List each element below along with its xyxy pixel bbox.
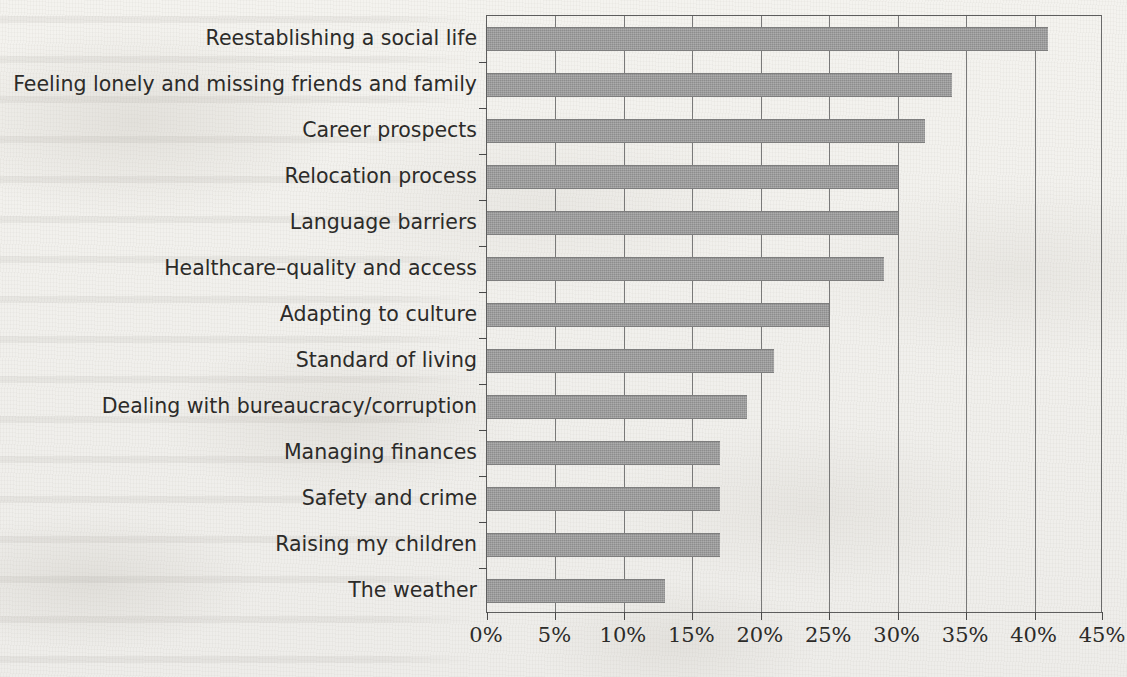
bar — [487, 165, 898, 189]
category-label: Feeling lonely and missing friends and f… — [0, 72, 477, 96]
bar — [487, 533, 720, 557]
y-axis-tick — [479, 292, 487, 293]
bar-row — [487, 430, 1101, 476]
plot-area — [486, 15, 1102, 613]
y-axis-tick — [479, 246, 487, 247]
category-label: Safety and crime — [0, 486, 477, 510]
bar — [487, 257, 884, 281]
x-axis-tick-label: 25% — [805, 622, 852, 648]
bar — [487, 119, 925, 143]
x-axis-tick-label: 45% — [1079, 622, 1126, 648]
category-label: Career prospects — [0, 118, 477, 142]
horizontal-bar-chart: Reestablishing a social lifeFeeling lone… — [0, 0, 1127, 677]
x-axis-tick-label: 0% — [469, 622, 502, 648]
bar — [487, 487, 720, 511]
bar — [487, 27, 1048, 51]
x-axis-tick-label: 10% — [600, 622, 647, 648]
x-tick-45% — [1102, 612, 1103, 620]
bar-row — [487, 338, 1101, 384]
y-axis-tick — [479, 522, 487, 523]
y-axis-tick — [479, 430, 487, 431]
bar-row — [487, 292, 1101, 338]
bar-row — [487, 16, 1101, 62]
x-axis-tick-label: 35% — [942, 622, 989, 648]
x-axis-tick-label: 5% — [538, 622, 571, 648]
bar-row — [487, 62, 1101, 108]
bar — [487, 349, 774, 373]
bar — [487, 579, 665, 603]
x-axis-tick-label: 15% — [668, 622, 715, 648]
y-axis-tick — [479, 108, 487, 109]
category-label: Reestablishing a social life — [0, 26, 477, 50]
bar-row — [487, 476, 1101, 522]
bar-row — [487, 200, 1101, 246]
x-axis-tick-label: 30% — [873, 622, 920, 648]
bar — [487, 73, 952, 97]
x-axis-tick-label: 40% — [1010, 622, 1057, 648]
bar-row — [487, 384, 1101, 430]
y-axis-tick — [479, 200, 487, 201]
category-label: Healthcare–quality and access — [0, 256, 477, 280]
bar — [487, 211, 898, 235]
category-label: Adapting to culture — [0, 302, 477, 326]
category-label: Standard of living — [0, 348, 477, 372]
x-axis-tick-label: 20% — [736, 622, 783, 648]
y-axis-tick — [479, 338, 487, 339]
category-label: Raising my children — [0, 532, 477, 556]
bar-row — [487, 108, 1101, 154]
bar-row — [487, 154, 1101, 200]
category-label: Relocation process — [0, 164, 477, 188]
category-label: Dealing with bureaucracy/corruption — [0, 394, 477, 418]
bar — [487, 395, 747, 419]
y-axis-tick — [479, 568, 487, 569]
category-label: Managing finances — [0, 440, 477, 464]
bar — [487, 441, 720, 465]
category-label: The weather — [0, 578, 477, 602]
y-axis-tick — [479, 476, 487, 477]
y-axis-tick — [479, 154, 487, 155]
y-axis-tick — [479, 62, 487, 63]
y-axis-tick — [479, 384, 487, 385]
bar — [487, 303, 829, 327]
category-label: Language barriers — [0, 210, 477, 234]
bar-row — [487, 522, 1101, 568]
bar-row — [487, 568, 1101, 614]
bar-row — [487, 246, 1101, 292]
